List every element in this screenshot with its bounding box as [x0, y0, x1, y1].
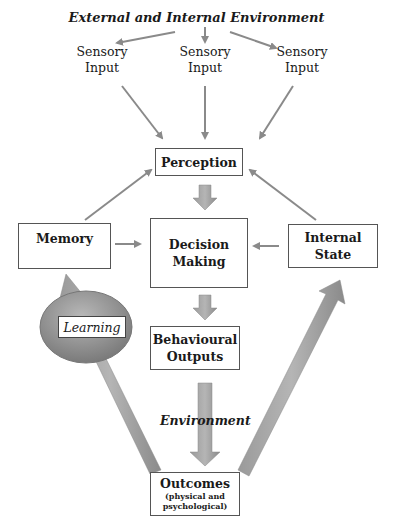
outcomes-label: Outcomes [160, 477, 230, 491]
environment-label: Environment [160, 413, 251, 428]
behavioural-outputs-box: Behavioural Outputs [150, 326, 240, 370]
sensory-input-left: Sensory Input [62, 44, 142, 76]
arrow-title-to-sensory-left [117, 32, 175, 43]
behaviour-label: Behavioural [153, 331, 238, 348]
perception-label: Perception [161, 154, 237, 171]
internal-state-label: Internal [304, 229, 361, 246]
sensory-input-center: Sensory Input [165, 44, 245, 76]
perception-box: Perception [155, 148, 243, 176]
sensory-input-right: Sensory Input [262, 44, 342, 76]
behaviour-label: Outputs [167, 348, 223, 365]
fat-arrow-perception-decision [193, 185, 217, 210]
diagram-title: External and Internal Environment [0, 10, 393, 25]
sensory-label: Input [62, 60, 142, 76]
memory-label: Memory [36, 230, 93, 247]
learning-label: Learning [63, 320, 120, 335]
fat-arrow-decision-behaviour [193, 295, 217, 320]
fat-arrow-outcomes-internal [238, 280, 345, 476]
learning-label-box: Learning [58, 316, 126, 338]
outcomes-sublabel: psychological) [163, 501, 228, 511]
decision-making-box: Decision Making [150, 218, 248, 288]
sensory-label: Input [262, 60, 342, 76]
internal-state-box: Internal State [288, 224, 378, 268]
memory-box: Memory [18, 223, 111, 269]
internal-state-label: State [315, 246, 352, 263]
decision-label: Decision [169, 236, 229, 253]
decision-label: Making [172, 253, 225, 270]
sensory-label: Sensory [62, 44, 142, 60]
sensory-label: Sensory [262, 44, 342, 60]
outcomes-box: Outcomes (physical and psychological) [150, 472, 240, 516]
sensory-label: Input [165, 60, 245, 76]
sensory-label: Sensory [165, 44, 245, 60]
outcomes-sublabel: (physical and [165, 491, 225, 501]
